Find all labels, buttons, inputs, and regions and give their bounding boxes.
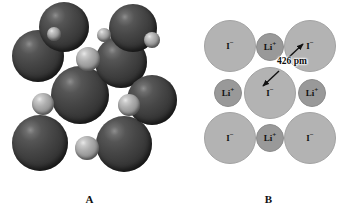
panel-a-caption: A: [0, 193, 179, 205]
iodide-ion-label: I−: [226, 134, 234, 143]
interionic-distance-label: 426 pm: [277, 56, 307, 66]
lithium-ion-label: Li+: [264, 43, 277, 52]
panel-a-scene: [0, 0, 179, 185]
iodide-ion-disc: I−: [204, 20, 256, 72]
lithium-ion-label: Li+: [306, 89, 319, 98]
lithium-sphere: [97, 28, 111, 42]
panel-a-space-filling-model: A: [0, 0, 179, 211]
iodide-sphere: [12, 115, 68, 171]
iodide-ion-label: I−: [266, 89, 274, 98]
iodide-sphere: [39, 2, 89, 52]
lithium-sphere: [47, 27, 61, 41]
lithium-ion-label: Li+: [264, 134, 277, 143]
crystal-structure-figure: A I−I−I−I−I−Li+Li+Li+Li+ 426 pm B: [0, 0, 358, 211]
lithium-ion-disc: Li+: [256, 124, 284, 152]
iodide-sphere: [96, 116, 152, 172]
panel-b-caption: B: [179, 193, 358, 205]
lithium-ion-disc: Li+: [298, 79, 326, 107]
lithium-sphere: [75, 136, 99, 160]
panel-b-scene: I−I−I−I−I−Li+Li+Li+Li+ 426 pm: [179, 0, 358, 185]
iodide-ion-disc: I−: [244, 67, 296, 119]
panel-b-cross-section: I−I−I−I−I−Li+Li+Li+Li+ 426 pm B: [179, 0, 358, 211]
lithium-sphere: [144, 32, 160, 48]
lithium-ion-label: Li+: [222, 89, 235, 98]
lithium-ion-disc: Li+: [214, 79, 242, 107]
iodide-ion-disc: I−: [204, 112, 256, 164]
lithium-sphere: [32, 93, 54, 115]
iodide-ion-label: I−: [226, 42, 234, 51]
iodide-ion-label: I−: [306, 134, 314, 143]
lithium-sphere: [118, 94, 140, 116]
iodide-ion-disc: I−: [284, 112, 336, 164]
iodide-ion-label: I−: [306, 42, 314, 51]
lithium-sphere: [76, 47, 100, 71]
